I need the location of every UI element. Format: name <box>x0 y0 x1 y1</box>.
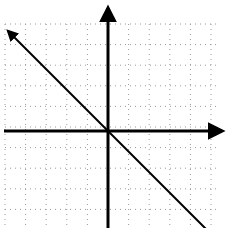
dotted-grid <box>5 24 216 228</box>
coordinate-plane <box>0 0 226 228</box>
